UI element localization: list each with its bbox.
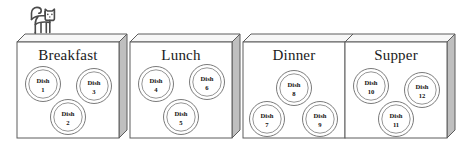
box-supper-side-face	[447, 34, 455, 138]
dish-3-label-top: Dish	[88, 79, 101, 86]
dish-4[interactable]: Dish 4	[139, 67, 174, 102]
box-dinner[interactable]: Dinner Dish 8 Dish 7 Dish 9	[243, 34, 353, 138]
dish-10[interactable]: Dish 10	[354, 69, 389, 104]
dish-12-label-num: 12	[419, 92, 426, 99]
dish-1-label-num: 1	[41, 86, 44, 93]
dish-1[interactable]: Dish 1	[26, 67, 61, 102]
box-breakfast-title: Breakfast	[38, 47, 98, 63]
box-dinner-title: Dinner	[273, 47, 316, 63]
box-lunch-top-face	[130, 34, 240, 42]
dish-9-label-top: Dish	[314, 112, 327, 119]
box-lunch[interactable]: Lunch Dish 4 Dish 6 Dish 5	[130, 34, 240, 138]
dish-2[interactable]: Dish 2	[51, 100, 86, 135]
dish-6[interactable]: Dish 6	[190, 65, 225, 100]
dish-11[interactable]: Dish 11	[379, 102, 414, 137]
box-breakfast[interactable]: Breakfast Dish 1 Dish 3 Dish 2	[17, 34, 127, 138]
dish-2-label-top: Dish	[62, 110, 75, 117]
dish-8-label-top: Dish	[288, 81, 301, 88]
box-supper[interactable]: Supper Dish 10 Dish 12 Dish 11	[345, 34, 455, 138]
dish-7-label-top: Dish	[261, 112, 274, 119]
dish-10-label-num: 10	[368, 88, 375, 95]
box-breakfast-top-face	[17, 34, 127, 42]
dish-1-label-top: Dish	[37, 77, 50, 84]
dish-4-label-top: Dish	[150, 77, 163, 84]
box-supper-top-face	[345, 34, 455, 42]
cat-icon	[32, 7, 55, 33]
dish-6-label-top: Dish	[201, 75, 214, 82]
dish-5-label-top: Dish	[175, 110, 188, 117]
dish-5[interactable]: Dish 5	[164, 100, 199, 135]
dish-11-label-num: 11	[393, 121, 399, 128]
dish-9[interactable]: Dish 9	[303, 102, 338, 137]
box-dinner-top-face	[243, 34, 353, 42]
dish-10-label-top: Dish	[365, 79, 378, 86]
dish-12[interactable]: Dish 12	[405, 73, 440, 108]
diagram-canvas: Breakfast Dish 1 Dish 3 Dish 2 Lunch	[0, 0, 466, 151]
box-breakfast-side-face	[119, 34, 127, 138]
box-supper-title: Supper	[374, 47, 418, 63]
dish-12-label-top: Dish	[416, 83, 429, 90]
box-lunch-side-face	[232, 34, 240, 138]
box-lunch-title: Lunch	[161, 47, 201, 63]
dish-7[interactable]: Dish 7	[250, 102, 285, 137]
dish-11-label-top: Dish	[390, 112, 403, 119]
dish-3[interactable]: Dish 3	[77, 69, 112, 104]
dish-8[interactable]: Dish 8	[277, 71, 312, 106]
